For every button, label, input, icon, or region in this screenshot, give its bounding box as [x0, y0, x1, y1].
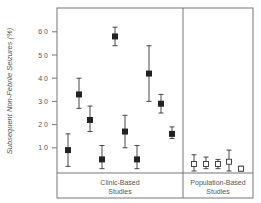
- data-point-filled: [146, 71, 152, 77]
- group-label-line: Population-Based: [183, 178, 253, 187]
- data-point-filled: [134, 156, 140, 162]
- data-point-filled: [112, 33, 118, 39]
- data-point-filled: [158, 101, 164, 107]
- group-label-line: Studies: [183, 187, 253, 196]
- data-point-open: [204, 162, 209, 167]
- y-tick-label: 4 0: [38, 75, 48, 82]
- y-tick-label: 1 0: [38, 144, 48, 151]
- data-point-open: [192, 162, 197, 167]
- data-point-open: [216, 162, 221, 167]
- y-tick-label: 3 0: [38, 98, 48, 105]
- data-point-open: [227, 159, 232, 164]
- scatter-plot: 1 02 03 04 05 06 0: [0, 0, 261, 203]
- data-point-filled: [65, 147, 71, 153]
- y-tick-label: 2 0: [38, 121, 48, 128]
- plot-frame: [57, 8, 253, 198]
- y-tick-label: 6 0: [38, 28, 48, 35]
- group-label-line: Clinic-Based: [57, 178, 183, 187]
- data-point-open: [239, 166, 244, 171]
- y-tick-label: 5 0: [38, 52, 48, 59]
- group-label-clinic: Clinic-Based Studies: [57, 178, 183, 196]
- group-label-line: Studies: [57, 187, 183, 196]
- data-point-filled: [87, 117, 93, 123]
- data-point-filled: [122, 129, 128, 135]
- data-point-filled: [169, 131, 175, 137]
- data-point-filled: [76, 91, 82, 97]
- data-point-filled: [99, 156, 105, 162]
- group-label-population: Population-Based Studies: [183, 178, 253, 196]
